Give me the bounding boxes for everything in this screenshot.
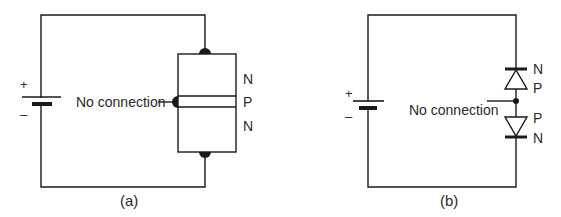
battery-plus-label: +	[20, 77, 28, 92]
lower-diode	[505, 117, 527, 137]
battery-a	[22, 97, 61, 104]
npn-block	[172, 48, 236, 158]
bottom-contact-dot	[199, 152, 211, 158]
layer-label-p: P	[243, 94, 252, 110]
battery-minus-label: –	[20, 107, 28, 122]
battery-b	[353, 101, 384, 108]
no-connection-label-b: No connection	[409, 102, 499, 118]
panel-a: + – No connection N P N (a)	[20, 15, 253, 209]
panel-b: + – No connection N P P N (b)	[345, 15, 543, 209]
top-contact-dot	[199, 48, 211, 54]
battery-plus-label: +	[345, 86, 353, 101]
diode-label-p-bottom: P	[533, 110, 542, 126]
layer-label-n-top: N	[243, 71, 253, 87]
battery-minus-label: –	[345, 109, 353, 124]
caption-a: (a)	[120, 192, 138, 209]
upper-diode-triangle	[505, 70, 527, 89]
npn-outer-box	[178, 54, 236, 152]
diode-label-p-top: P	[533, 80, 542, 96]
upper-diode	[505, 69, 527, 117]
circuit-svg: + – No connection N P N (a)	[0, 0, 561, 217]
caption-b: (b)	[440, 192, 458, 209]
wire-top-a	[41, 15, 205, 98]
diode-label-n-top: N	[533, 61, 543, 77]
lower-diode-triangle	[505, 117, 527, 136]
wire-bottom-a	[41, 105, 205, 187]
wire-bottom-b	[368, 108, 516, 187]
no-connection-label-a: No connection	[76, 94, 166, 110]
layer-label-n-bottom: N	[243, 118, 253, 134]
diode-label-n-bottom: N	[533, 130, 543, 146]
wire-top-b	[368, 15, 516, 101]
transistor-equivalent-diagram: + – No connection N P N (a)	[0, 0, 561, 217]
